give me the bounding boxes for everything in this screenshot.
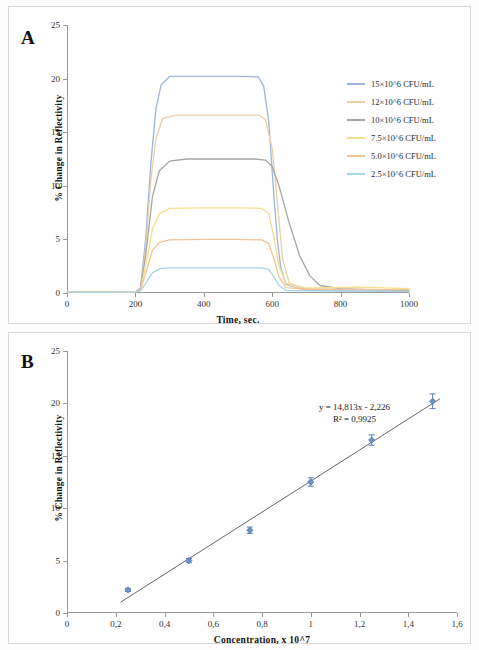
curve-7-5-10-6-cfu-ml [67, 208, 409, 293]
x-tick-label: 800 [334, 299, 348, 309]
x-tick-mark [262, 613, 263, 617]
x-tick-mark [408, 613, 409, 617]
legend-item-label: 10×10^6 CFU/mL [371, 115, 434, 125]
x-tick-label: 1000 [400, 299, 418, 309]
x-tick-label: 1 [309, 619, 314, 629]
y-tick-label: 0 [56, 608, 61, 618]
legend-swatch-icon [347, 101, 365, 103]
scatter-marker [429, 398, 435, 404]
x-tick-mark [341, 293, 342, 297]
data-point-group [247, 527, 253, 533]
y-tick-label: 25 [51, 20, 60, 30]
legend-item[interactable]: 7.5×10^6 CFU/mL [347, 129, 479, 147]
regression-fit-line [121, 399, 440, 602]
panel-a-y-axis-title: % Change in Reflectivity [54, 38, 64, 258]
scatter-marker [368, 437, 374, 443]
legend-item-label: 15×10^6 CFU/mL [371, 79, 434, 89]
x-tick-label: 1,6 [451, 619, 462, 629]
legend-item[interactable]: 5.0×10^6 CFU/mL [347, 147, 479, 165]
x-tick-label: 0,8 [256, 619, 267, 629]
legend-item-label: 5.0×10^6 CFU/mL [371, 151, 436, 161]
panel-b-scatter [67, 351, 457, 613]
data-point-group [429, 394, 435, 409]
x-tick-label: 0,6 [208, 619, 219, 629]
x-tick-mark [67, 293, 68, 297]
panel-a-legend: 15×10^6 CFU/mL12×10^6 CFU/mL10×10^6 CFU/… [347, 75, 479, 183]
panel-a-x-axis-title: Time, sec. [67, 315, 409, 325]
panel-b-letter: B [21, 351, 34, 373]
legend-swatch-icon [347, 119, 365, 121]
legend-swatch-icon [347, 83, 365, 85]
x-tick-label: 600 [265, 299, 279, 309]
panel-b-x-axis-title: Concentration, x 10^7 [67, 635, 457, 645]
x-tick-mark [457, 613, 458, 617]
x-tick-label: 0,4 [159, 619, 170, 629]
panel-b-regression-annotation: y = 14,813x - 2,226 R² = 0,9925 [319, 401, 390, 425]
legend-swatch-icon [347, 173, 365, 175]
x-tick-mark [165, 613, 166, 617]
panel-a-letter: A [21, 27, 35, 49]
x-tick-mark [204, 293, 205, 297]
x-tick-label: 0 [65, 299, 70, 309]
x-tick-label: 1,4 [403, 619, 414, 629]
regression-equation: y = 14,813x - 2,226 [319, 401, 390, 413]
legend-item-label: 7.5×10^6 CFU/mL [371, 133, 436, 143]
x-tick-mark [311, 613, 312, 617]
legend-item[interactable]: 15×10^6 CFU/mL [347, 75, 479, 93]
x-tick-mark [360, 613, 361, 617]
x-tick-mark [116, 613, 117, 617]
legend-item-label: 12×10^6 CFU/mL [371, 97, 434, 107]
regression-r-squared: R² = 0,9925 [319, 413, 390, 425]
x-tick-label: 200 [129, 299, 143, 309]
x-tick-label: 0 [65, 619, 70, 629]
x-tick-mark [213, 613, 214, 617]
panel-b: B 0510152025 00,20,40,60,811,21,41,6 y =… [8, 332, 471, 644]
legend-item-label: 2.5×10^6 CFU/mL [371, 169, 436, 179]
y-tick-label: 25 [51, 346, 60, 356]
curve-5-0-10-6-cfu-ml [67, 239, 409, 292]
x-tick-mark [67, 613, 68, 617]
legend-item[interactable]: 12×10^6 CFU/mL [347, 93, 479, 111]
data-point-group [186, 557, 192, 563]
x-tick-label: 1,2 [354, 619, 365, 629]
scatter-marker [125, 587, 131, 593]
data-point-group [308, 478, 314, 486]
panel-b-plot-area: 0510152025 00,20,40,60,811,21,41,6 y = 1… [67, 351, 457, 613]
legend-swatch-icon [347, 155, 365, 157]
scatter-marker [247, 527, 253, 533]
y-tick-label: 0 [56, 288, 61, 298]
panel-a: A 0510152025 02004006008001000 Time, sec… [8, 6, 471, 324]
figure-container: A 0510152025 02004006008001000 Time, sec… [0, 0, 479, 650]
x-tick-label: 400 [197, 299, 211, 309]
legend-item[interactable]: 10×10^6 CFU/mL [347, 111, 479, 129]
x-tick-mark [409, 293, 410, 297]
panel-b-y-axis-title: % Change in Reflectivity [54, 358, 64, 578]
x-tick-mark [135, 293, 136, 297]
x-tick-label: 0,2 [110, 619, 121, 629]
data-point-group [125, 587, 131, 593]
x-tick-mark [272, 293, 273, 297]
legend-item[interactable]: 2.5×10^6 CFU/mL [347, 165, 479, 183]
legend-swatch-icon [347, 137, 365, 139]
